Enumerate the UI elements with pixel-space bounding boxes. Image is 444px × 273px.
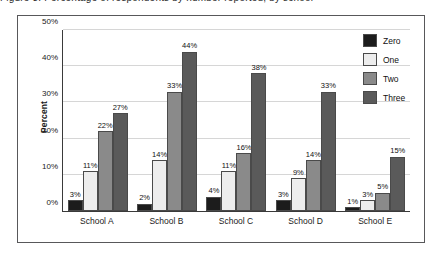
x-axis-labels: School ASchool BSchool CSchool DSchool E [62, 216, 410, 226]
bar-value-label: 5% [377, 183, 388, 191]
bar-slot: 14% [152, 30, 167, 211]
bar-one[interactable] [221, 171, 236, 211]
bar-value-label: 1% [347, 198, 358, 206]
bar-slot: 11% [83, 30, 98, 211]
bar-one[interactable] [291, 178, 306, 211]
y-tick-label: 40% [42, 53, 58, 62]
legend-label: Zero [383, 36, 400, 46]
legend-item-zero[interactable]: Zero [363, 34, 405, 47]
bar-slot: 16% [236, 30, 251, 211]
y-tick-label: 20% [42, 125, 58, 134]
bar-two[interactable] [306, 160, 321, 211]
legend-swatch-icon [363, 91, 377, 104]
plot-area: 0%10%20%30%40%50% 3%11%22%27%2%14%33%44%… [62, 30, 410, 212]
bar-value-label: 15% [390, 147, 405, 155]
bar-value-label: 14% [306, 151, 321, 159]
bar-value-label: 16% [236, 144, 251, 152]
bar-value-label: 4% [209, 187, 220, 195]
bar-value-label: 3% [362, 191, 373, 199]
bar-three[interactable] [321, 92, 336, 211]
bar-slot: 44% [182, 30, 197, 211]
bar-value-label: 11% [222, 162, 236, 170]
bar-slot: 4% [206, 30, 221, 211]
bar-two[interactable] [236, 153, 251, 211]
x-tick-label: School D [275, 216, 337, 226]
bar-group: 3%9%14%33% [276, 30, 336, 211]
bar-two[interactable] [167, 92, 182, 211]
bar-value-label: 11% [83, 162, 97, 170]
bar-value-label: 27% [113, 104, 128, 112]
bar-slot: 3% [68, 30, 83, 211]
bar-value-label: 3% [278, 191, 289, 199]
x-tick-label: School B [135, 216, 197, 226]
bar-zero[interactable] [137, 204, 152, 211]
legend-swatch-icon [363, 34, 377, 47]
bar-slot: 9% [291, 30, 306, 211]
legend: ZeroOneTwoThree [363, 34, 405, 104]
bar-zero[interactable] [276, 200, 291, 211]
bar-slot: 2% [137, 30, 152, 211]
legend-swatch-icon [363, 53, 377, 66]
y-tick-label: 10% [42, 161, 58, 170]
x-tick-label: School A [66, 216, 128, 226]
bar-one[interactable] [83, 171, 98, 211]
legend-label: Three [383, 93, 405, 103]
bar-value-label: 38% [251, 64, 266, 72]
y-tick-label: 30% [42, 89, 58, 98]
bar-slot: 38% [251, 30, 266, 211]
bar-three[interactable] [113, 113, 128, 211]
cutoff-caption: Figure 3. Percentage of respondents by n… [0, 0, 444, 4]
legend-label: Two [383, 74, 399, 84]
bar-group: 4%11%16%38% [206, 30, 266, 211]
bar-three[interactable] [390, 157, 405, 211]
legend-item-one[interactable]: One [363, 53, 405, 66]
bar-slot: 1% [345, 30, 360, 211]
bar-groups: 3%11%22%27%2%14%33%44%4%11%16%38%3%9%14%… [63, 30, 410, 211]
bar-slot: 33% [167, 30, 182, 211]
x-tick-label: School E [344, 216, 406, 226]
bar-one[interactable] [152, 160, 167, 211]
bar-value-label: 9% [293, 169, 304, 177]
bar-group: 2%14%33%44% [137, 30, 197, 211]
bar-slot: 22% [98, 30, 113, 211]
bar-slot: 33% [321, 30, 336, 211]
legend-item-three[interactable]: Three [363, 91, 405, 104]
bar-one[interactable] [360, 200, 375, 211]
bar-zero[interactable] [206, 197, 221, 211]
y-tick-label: 0% [46, 198, 58, 207]
bar-value-label: 33% [321, 82, 336, 90]
y-tick-label: 50% [42, 17, 58, 26]
bar-three[interactable] [182, 52, 197, 211]
bar-zero[interactable] [345, 207, 360, 211]
legend-label: One [383, 55, 399, 65]
bar-value-label: 2% [139, 194, 150, 202]
bar-two[interactable] [98, 131, 113, 211]
chart-container: Percent 0%10%20%30%40%50% 3%11%22%27%2%1… [18, 16, 426, 244]
legend-item-two[interactable]: Two [363, 72, 405, 85]
legend-swatch-icon [363, 72, 377, 85]
bar-value-label: 44% [182, 42, 197, 50]
bar-two[interactable] [375, 193, 390, 211]
bar-value-label: 3% [70, 191, 81, 199]
x-tick-label: School C [205, 216, 267, 226]
bar-three[interactable] [251, 73, 266, 211]
bar-slot: 27% [113, 30, 128, 211]
bar-slot: 3% [276, 30, 291, 211]
bar-value-label: 22% [98, 122, 113, 130]
bar-value-label: 14% [152, 151, 167, 159]
figure-frame: Percent 0%10%20%30%40%50% 3%11%22%27%2%1… [17, 15, 425, 243]
bar-zero[interactable] [68, 200, 83, 211]
bar-slot: 14% [306, 30, 321, 211]
bar-value-label: 33% [167, 82, 182, 90]
bar-slot: 11% [221, 30, 236, 211]
bar-group: 3%11%22%27% [68, 30, 128, 211]
